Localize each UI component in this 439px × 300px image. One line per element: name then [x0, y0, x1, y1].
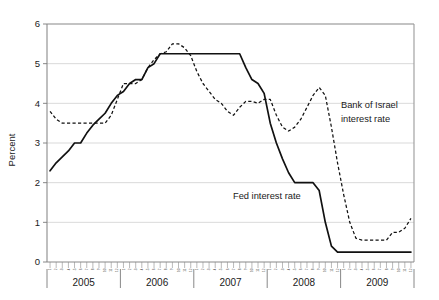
month-tick-label: 7	[85, 268, 89, 270]
month-tick-label: 9	[244, 268, 248, 270]
year-label: 2005	[73, 277, 96, 288]
month-tick-label: 10	[177, 268, 181, 272]
month-tick-label: 7	[378, 268, 382, 270]
month-tick-label: 5	[73, 268, 77, 270]
fed-label-line1: Fed interest rate	[233, 191, 301, 201]
month-tick-label: 7	[158, 268, 162, 270]
chart-canvas: 0123456 12345678910111212345678910111212…	[0, 0, 439, 300]
month-tick-label: 11	[183, 268, 187, 271]
month-tick-label: 4	[360, 268, 364, 270]
month-tick-label: 11	[256, 268, 260, 271]
month-tick-label: 8	[385, 268, 389, 270]
month-tick-label: 7	[232, 268, 236, 270]
month-tick-label: 9	[391, 268, 395, 270]
month-tick-label: 9	[317, 268, 321, 270]
month-tick-label: 11	[330, 268, 334, 271]
month-tick-label: 4	[287, 268, 291, 270]
y-tick-label: 0	[35, 256, 40, 267]
bank-of-israel-label-line1: Bank of Israel	[341, 100, 398, 110]
month-tick-label: 1	[268, 268, 272, 270]
y-axis-ticks: 0123456	[35, 18, 47, 267]
month-tick-label: 5	[146, 268, 150, 270]
year-label: 2008	[293, 277, 316, 288]
month-tick-label: 10	[250, 268, 254, 272]
y-tick-label: 6	[35, 18, 40, 29]
year-label: 2007	[219, 277, 242, 288]
month-tick-label: 8	[91, 268, 95, 270]
month-tick-label: 1	[48, 268, 52, 270]
month-tick-label: 2	[201, 268, 205, 270]
interest-rate-line-chart: 0123456 12345678910111212345678910111212…	[0, 0, 439, 300]
month-tick-label: 11	[109, 268, 113, 271]
month-tick-label: 5	[293, 268, 297, 270]
month-tick-label: 5	[219, 268, 223, 270]
month-tick-label: 5	[366, 268, 370, 270]
month-tick-label: 8	[164, 268, 168, 270]
month-tick-label: 12	[262, 268, 266, 272]
bank-of-israel-annotation: Bank of Israel interest rate	[341, 100, 398, 124]
month-tick-label: 3	[354, 268, 358, 270]
y-tick-label: 2	[35, 177, 40, 188]
month-tick-label: 12	[336, 268, 340, 272]
month-tick-label: 4	[67, 268, 71, 270]
month-tick-label: 2	[274, 268, 278, 270]
month-tick-label: 10	[103, 268, 107, 272]
month-tick-label: 1	[195, 268, 199, 270]
month-tick-label: 12	[115, 268, 119, 272]
month-tick-label: 6	[226, 268, 230, 270]
month-tick-label: 4	[140, 268, 144, 270]
month-tick-label: 8	[238, 268, 242, 270]
month-tick-label: 6	[79, 268, 83, 270]
y-tick-label: 5	[35, 58, 40, 69]
month-tick-label: 2	[128, 268, 132, 270]
year-label: 2009	[366, 277, 389, 288]
month-tick-label: 7	[305, 268, 309, 270]
month-tick-label: 6	[299, 268, 303, 270]
y-axis-title: Percent	[6, 133, 17, 166]
month-tick-label: 3	[281, 268, 285, 270]
month-tick-label: 3	[134, 268, 138, 270]
month-tick-label: 12	[189, 268, 193, 272]
month-tick-label: 12	[409, 268, 413, 272]
month-tick-label: 6	[372, 268, 376, 270]
month-tick-label: 2	[54, 268, 58, 270]
month-tick-label: 1	[342, 268, 346, 270]
month-tick-label: 6	[152, 268, 156, 270]
month-tick-label: 4	[213, 268, 217, 270]
data-series	[50, 44, 411, 252]
series-line-bank-of-israel	[50, 44, 411, 240]
fed-annotation: Fed interest rate	[233, 191, 301, 201]
y-tick-label: 4	[35, 98, 40, 109]
month-tick-label: 8	[311, 268, 315, 270]
month-tick-label: 3	[207, 268, 211, 270]
bank-of-israel-label-line2: interest rate	[341, 114, 390, 124]
month-tick-label: 10	[323, 268, 327, 272]
month-tick-label: 9	[170, 268, 174, 270]
month-tick-label: 9	[97, 268, 101, 270]
year-label: 2006	[146, 277, 169, 288]
month-tick-label: 10	[397, 268, 401, 272]
month-tick-label: 2	[348, 268, 352, 270]
month-tick-label: 3	[60, 268, 64, 270]
month-tick-label: 1	[122, 268, 126, 270]
x-axis-month-ticks	[50, 262, 411, 268]
y-tick-label: 3	[35, 137, 40, 148]
x-axis-month-labels: 1234567891011121234567891011121234567891…	[48, 268, 413, 272]
month-tick-label: 11	[403, 268, 407, 271]
y-tick-label: 1	[35, 217, 40, 228]
